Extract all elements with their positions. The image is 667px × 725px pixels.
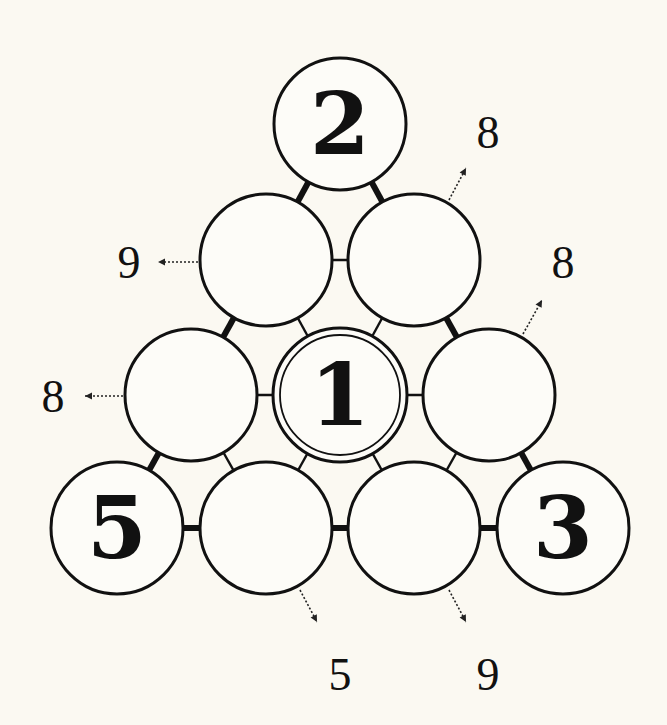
cell-b-2[interactable]	[200, 462, 332, 594]
cell-value: 2	[310, 73, 370, 174]
cell-r2-right[interactable]	[348, 194, 480, 326]
clue-label: 9	[477, 649, 500, 700]
cell-center: 1	[273, 328, 407, 462]
cell-r3-left[interactable]	[125, 329, 257, 461]
cell-value: 3	[533, 477, 593, 578]
arrowhead-icon	[158, 259, 165, 266]
clue-r3-right: 8	[523, 237, 575, 334]
clue-label: 8	[552, 237, 575, 288]
puzzle-canvas: 2153 898859	[0, 0, 667, 725]
cell-r3-right[interactable]	[423, 329, 555, 461]
clue-label: 8	[42, 371, 65, 422]
clue-r3-left: 8	[42, 371, 124, 422]
cell-circle	[200, 462, 332, 594]
cell-circle	[348, 194, 480, 326]
cell-r2-left[interactable]	[200, 194, 332, 326]
puzzle-board: 2153 898859	[0, 0, 667, 725]
cell-circle	[423, 329, 555, 461]
nodes: 2153	[51, 58, 629, 594]
cell-circle	[200, 194, 332, 326]
cell-circle	[348, 462, 480, 594]
cell-b-3[interactable]	[348, 462, 480, 594]
clue-r2-left: 9	[118, 237, 199, 288]
clue-b-3: 9	[449, 590, 500, 700]
cell-bottom-right: 3	[497, 462, 629, 594]
clue-r2-right: 8	[449, 107, 500, 200]
clue-label: 5	[329, 649, 352, 700]
clue-label: 9	[118, 237, 141, 288]
cell-value: 1	[310, 344, 370, 445]
cell-top: 2	[274, 58, 406, 190]
arrowhead-icon	[85, 393, 92, 400]
cell-circle	[125, 329, 257, 461]
cell-bottom-left: 5	[51, 462, 183, 594]
clue-b-2: 5	[300, 590, 352, 700]
clue-label: 8	[477, 107, 500, 158]
arrowhead-icon	[536, 300, 542, 308]
cell-value: 5	[87, 477, 147, 578]
